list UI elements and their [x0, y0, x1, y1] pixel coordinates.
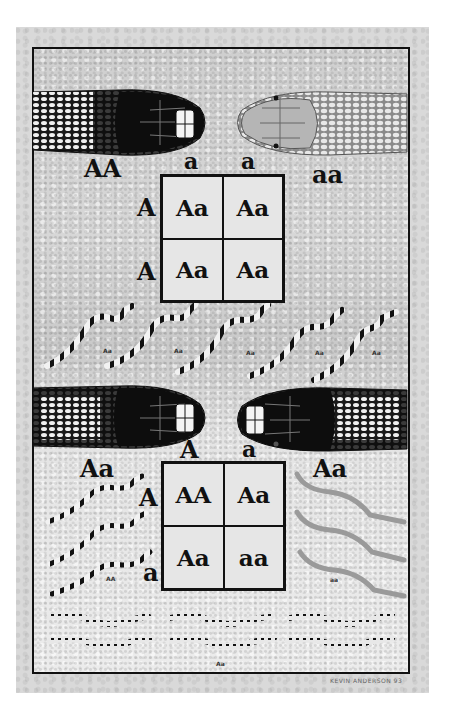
punnett-cell: aa [224, 526, 285, 589]
offspring-label: Aa [103, 347, 112, 354]
parent-genotype-right-1: aa [312, 163, 343, 187]
parent-genotype-left-1: AA [84, 157, 121, 181]
column-allele-1-1: a [184, 150, 198, 172]
row-allele-1-1: A [137, 196, 156, 220]
punnett-cell: Aa [162, 239, 223, 302]
offspring-label: Aa [372, 349, 381, 356]
punnett-cell: AA [163, 463, 224, 526]
punnett-cell: Aa [163, 526, 224, 589]
offspring-label: Aa [174, 347, 183, 354]
parent-genotype-left-2: Aa [80, 457, 114, 481]
row-allele-2-1: A [139, 486, 158, 510]
punnett-cell: Aa [223, 176, 284, 239]
artist-signature: KEVIN ANDERSON 93 [330, 677, 402, 684]
snake-head-light-aa-parent [238, 92, 408, 155]
column-allele-2-1: A [180, 438, 199, 462]
offspring-label-aa-heterozygous: Aa [216, 660, 225, 667]
row-allele-2-2: a [143, 561, 159, 585]
offspring-label-aa-recessive: aa [330, 576, 338, 583]
offspring-aa-dominant-left [48, 476, 150, 594]
offspring-label: Aa [315, 349, 324, 356]
punnett-cell: Aa [223, 239, 284, 302]
punnett-square-1: Aa Aa Aa Aa [160, 174, 285, 303]
punnett-square-2: AA Aa Aa aa [161, 461, 286, 591]
punnett-cell: Aa [224, 463, 285, 526]
offspring-label-aa-dominant: AA [106, 575, 115, 582]
snake-artwork [0, 0, 451, 721]
column-allele-1-2: a [241, 150, 255, 172]
offspring-aa-heterozygous-bottom [50, 614, 392, 646]
offspring-label: Aa [246, 349, 255, 356]
snake-head-dark-aa-parent [33, 90, 205, 155]
punnett-cell: Aa [162, 176, 223, 239]
column-allele-2-2: a [242, 438, 256, 460]
offspring-aa-recessive-right [297, 474, 404, 596]
parent-genotype-right-2: Aa [313, 457, 347, 481]
offspring-row-1 [47, 305, 396, 380]
row-allele-1-2: A [137, 260, 156, 284]
snake-head-dark-right-parent [238, 388, 408, 451]
